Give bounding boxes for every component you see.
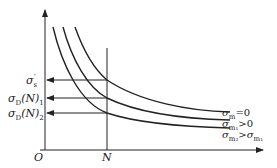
curve-sigma-m0 (75, 27, 230, 112)
curve-label-m2: σm₂>σm₁ (222, 129, 263, 143)
origin-label: O (34, 151, 43, 164)
label-sigma-dn2: σD(N)2 (8, 107, 44, 122)
fatigue-curve-diagram: σs′ σD(N)1 σD(N)2 O N σm=0 σm₁>0 σm₂>σm₁ (0, 0, 277, 168)
n-label: N (101, 151, 112, 164)
label-sigma-dn1: σD(N)1 (8, 92, 44, 107)
curve-sigma-m1 (63, 27, 230, 120)
label-sigma-s-prime: σs′ (26, 72, 38, 89)
